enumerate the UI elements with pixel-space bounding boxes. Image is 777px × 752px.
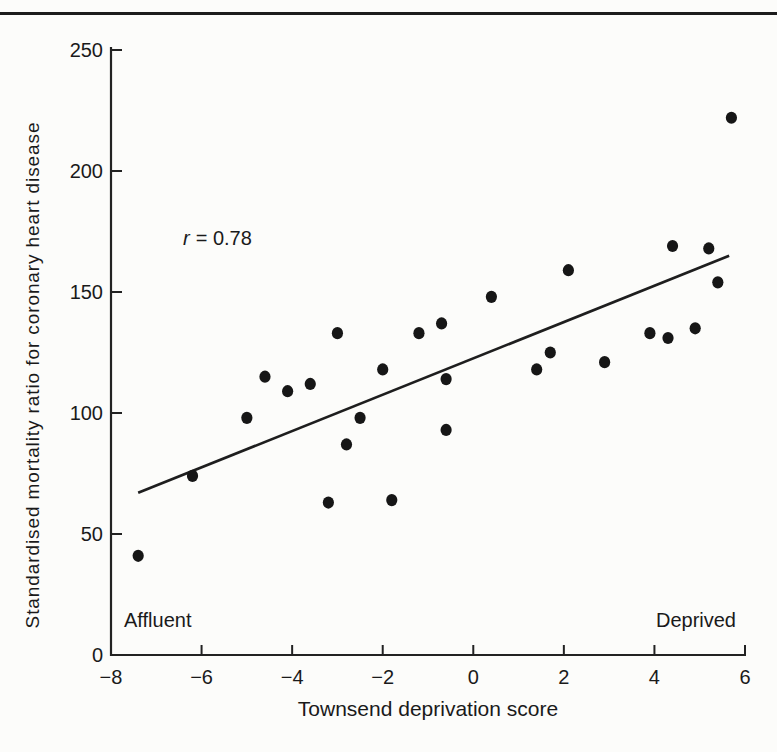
data-point: [690, 322, 701, 334]
affluent-label: Affluent: [124, 609, 191, 632]
figure-page: 050100150200250−8−6−4−20246 Standardised…: [0, 0, 777, 752]
data-point: [599, 356, 610, 368]
data-point: [726, 112, 737, 124]
data-point: [354, 412, 365, 424]
regression-line: [138, 256, 729, 493]
data-point: [241, 412, 252, 424]
r-value-text: = 0.78: [196, 227, 252, 249]
x-tick-label: 0: [468, 666, 479, 688]
data-point: [662, 332, 673, 344]
x-tick-label: −2: [371, 666, 394, 688]
y-tick-label: 0: [92, 644, 103, 666]
data-point: [187, 470, 198, 482]
y-tick-label: 200: [70, 160, 103, 182]
data-point: [413, 327, 424, 339]
y-tick-label: 150: [70, 281, 103, 303]
y-tick-label: 100: [70, 402, 103, 424]
y-tick-label: 50: [81, 523, 103, 545]
data-point: [332, 327, 343, 339]
data-point: [703, 242, 714, 254]
data-point: [441, 373, 452, 385]
data-point: [644, 327, 655, 339]
data-point: [486, 291, 497, 303]
data-point: [259, 371, 270, 383]
x-tick-label: −8: [100, 666, 123, 688]
axes: [111, 47, 746, 655]
r-symbol: r: [183, 227, 190, 249]
y-axis-title: Standardised mortality ratio for coronar…: [22, 122, 44, 629]
deprived-label: Deprived: [656, 609, 736, 632]
data-point: [531, 363, 542, 375]
data-point: [133, 550, 144, 562]
data-point: [386, 494, 397, 506]
x-tick-label: −4: [281, 666, 304, 688]
data-point: [441, 424, 452, 436]
x-tick-label: 2: [558, 666, 569, 688]
y-tick-label: 250: [70, 39, 103, 61]
correlation-annotation: r= 0.78: [183, 227, 252, 250]
data-point: [305, 378, 316, 390]
data-point: [323, 496, 334, 508]
data-point: [377, 363, 388, 375]
data-point: [282, 385, 293, 397]
data-point: [563, 264, 574, 276]
x-tick-label: 6: [739, 666, 750, 688]
data-point: [712, 276, 723, 288]
data-point: [436, 317, 447, 329]
data-point: [545, 346, 556, 358]
scatter-plot-canvas: 050100150200250−8−6−4−20246: [0, 0, 777, 752]
x-tick-label: −6: [190, 666, 213, 688]
data-point: [341, 438, 352, 450]
data-point: [667, 240, 678, 252]
x-tick-label: 4: [649, 666, 660, 688]
x-axis-title: Townsend deprivation score: [111, 697, 745, 721]
